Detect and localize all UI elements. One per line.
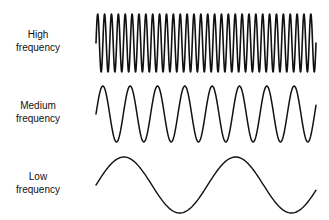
low-frequency-wave — [96, 157, 316, 213]
high-frequency-wave — [96, 14, 316, 72]
medium-frequency-wave — [96, 86, 316, 142]
waves-canvas — [0, 0, 329, 220]
